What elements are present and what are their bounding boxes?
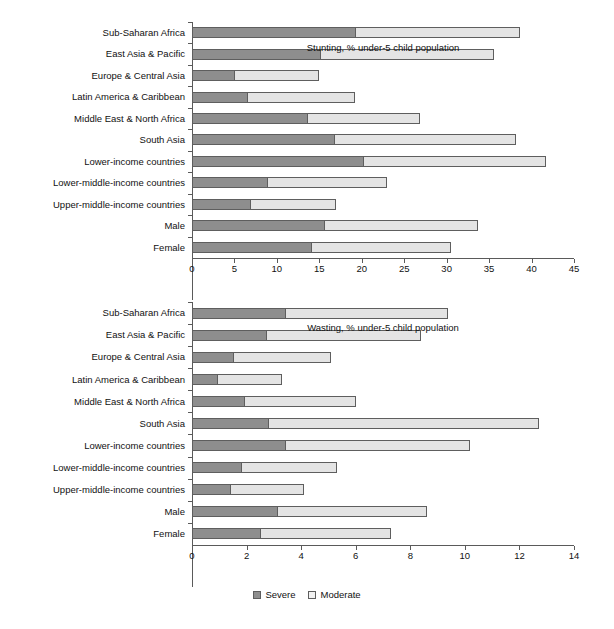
stacked-bar[interactable] — [192, 220, 574, 231]
stacked-bar[interactable] — [192, 352, 574, 363]
wasting-x-axis — [192, 545, 574, 546]
legend-label: Severe — [265, 589, 295, 600]
stacked-bar[interactable] — [192, 418, 574, 429]
stunting-bar-rows: Sub-Saharan AfricaEast Asia & PacificEur… — [192, 22, 574, 258]
bar-segment-severe — [192, 242, 311, 253]
wasting-x-axis-title: Wasting, % under-5 child population — [192, 322, 574, 333]
stacked-bar[interactable] — [192, 27, 574, 38]
bar-segment-moderate — [233, 352, 331, 363]
bar-segment-severe — [192, 177, 267, 188]
stunting-x-axis — [192, 258, 574, 259]
category-label: Middle East & North Africa — [74, 114, 185, 124]
stacked-bar[interactable] — [192, 156, 574, 167]
bar-segment-severe — [192, 462, 241, 473]
bar-segment-moderate — [334, 134, 517, 145]
category-label: Lower-middle-income countries — [53, 463, 185, 473]
category-label: Europe & Central Asia — [92, 71, 185, 81]
category-label: Upper-middle-income countries — [53, 200, 185, 210]
bar-segment-moderate — [268, 418, 538, 429]
bar-segment-moderate — [247, 92, 355, 103]
category-label: Sub-Saharan Africa — [103, 308, 185, 318]
bar-row: Sub-Saharan Africa — [192, 22, 574, 43]
y-axis-tick — [188, 523, 192, 524]
x-axis-tick-label: 10 — [460, 551, 471, 561]
bar-segment-severe — [192, 352, 233, 363]
stunting-plot-area: Sub-Saharan AfricaEast Asia & PacificEur… — [192, 22, 574, 300]
bar-row: Latin America & Caribbean — [192, 86, 574, 107]
y-axis-tick — [188, 151, 192, 152]
category-label: South Asia — [140, 135, 185, 145]
legend-item-moderate[interactable]: Moderate — [308, 589, 360, 600]
bar-segment-moderate — [307, 113, 420, 124]
category-label: Upper-middle-income countries — [53, 485, 185, 495]
category-label: Latin America & Caribbean — [72, 375, 185, 385]
stacked-bar[interactable] — [192, 92, 574, 103]
category-label: East Asia & Pacific — [106, 49, 185, 59]
bar-row: Female — [192, 523, 574, 545]
stunting-x-axis-title: Stunting, % under-5 child population — [192, 42, 574, 53]
bar-row: Upper-middle-income countries — [192, 479, 574, 501]
y-axis-tick — [188, 457, 192, 458]
bar-segment-severe — [192, 92, 247, 103]
x-axis-tick-label: 20 — [356, 264, 367, 274]
stacked-bar[interactable] — [192, 177, 574, 188]
bar-segment-severe — [192, 113, 307, 124]
x-axis-tick-label: 8 — [408, 551, 413, 561]
y-axis-tick — [188, 302, 192, 303]
wasting-bar-rows: Sub-Saharan AfricaEast Asia & PacificEur… — [192, 302, 574, 545]
bar-segment-moderate — [363, 156, 546, 167]
y-axis-tick — [188, 390, 192, 391]
bar-segment-moderate — [250, 199, 337, 210]
bar-segment-moderate — [230, 484, 304, 495]
x-axis-tick-label: 2 — [244, 551, 249, 561]
stacked-bar[interactable] — [192, 440, 574, 451]
x-axis-tick-label: 5 — [232, 264, 237, 274]
y-axis-tick — [188, 434, 192, 435]
y-axis-tick — [188, 108, 192, 109]
stacked-bar[interactable] — [192, 396, 574, 407]
stacked-bar[interactable] — [192, 308, 574, 319]
bar-segment-moderate — [324, 220, 478, 231]
category-label: Middle East & North Africa — [74, 397, 185, 407]
x-axis-tick-label: 12 — [514, 551, 525, 561]
bar-row: Lower-middle-income countries — [192, 172, 574, 193]
y-axis-tick — [188, 194, 192, 195]
bar-segment-severe — [192, 220, 324, 231]
stacked-bar[interactable] — [192, 484, 574, 495]
stacked-bar[interactable] — [192, 242, 574, 253]
stacked-bar[interactable] — [192, 70, 574, 81]
stacked-bar[interactable] — [192, 506, 574, 517]
stacked-bar[interactable] — [192, 374, 574, 385]
y-axis-tick — [188, 22, 192, 23]
stacked-bar[interactable] — [192, 113, 574, 124]
stacked-bar[interactable] — [192, 528, 574, 539]
stacked-bar[interactable] — [192, 199, 574, 210]
bar-segment-moderate — [277, 506, 427, 517]
category-label: East Asia & Pacific — [106, 330, 185, 340]
category-label: Female — [153, 243, 185, 253]
category-label: South Asia — [140, 419, 185, 429]
category-label: Sub-Saharan Africa — [103, 28, 185, 38]
bar-row: Lower-middle-income countries — [192, 457, 574, 479]
y-axis-tick — [188, 129, 192, 130]
legend-label: Moderate — [320, 589, 360, 600]
bar-row: Lower-income countries — [192, 434, 574, 456]
bar-segment-moderate — [285, 440, 471, 451]
legend-item-severe[interactable]: Severe — [253, 589, 295, 600]
x-axis-tick-label: 4 — [298, 551, 303, 561]
stacked-bar[interactable] — [192, 462, 574, 473]
bar-segment-moderate — [260, 528, 391, 539]
stacked-bar[interactable] — [192, 134, 574, 145]
wasting-plot-area: Sub-Saharan AfricaEast Asia & PacificEur… — [192, 302, 574, 587]
bar-segment-severe — [192, 308, 285, 319]
bar-row: Female — [192, 237, 574, 258]
category-label: Female — [153, 529, 185, 539]
bar-row: South Asia — [192, 129, 574, 150]
bar-segment-moderate — [355, 27, 520, 38]
chart-legend: SevereModerate — [0, 589, 614, 600]
bar-segment-severe — [192, 440, 285, 451]
x-axis-tick-label: 14 — [569, 551, 580, 561]
y-axis-tick — [188, 501, 192, 502]
category-label: Europe & Central Asia — [92, 352, 185, 362]
y-axis-tick — [188, 368, 192, 369]
